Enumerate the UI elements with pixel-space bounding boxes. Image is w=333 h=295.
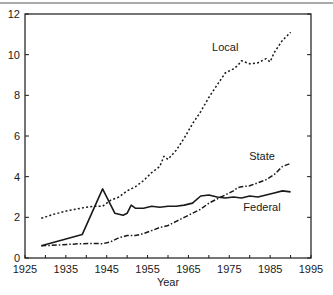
series-layer: LocalStateFederal: [41, 32, 290, 246]
plot-frame: [25, 14, 311, 258]
x-tick-label: 1975: [217, 263, 241, 275]
y-tick-label: 2: [14, 211, 20, 223]
series-federal-line: [41, 189, 290, 246]
y-tick-label: 8: [14, 89, 20, 101]
line-chart: 024681012 192519351945195519651975198519…: [0, 0, 333, 295]
x-tick-label: 1985: [258, 263, 282, 275]
series-local-line: [41, 32, 290, 218]
x-tick-label: 1955: [135, 263, 159, 275]
x-axis-label: Year: [157, 276, 180, 288]
y-tick-label: 12: [8, 8, 20, 20]
x-tick-label: 1945: [94, 263, 118, 275]
y-tick-label: 10: [8, 49, 20, 61]
y-tick-label: 6: [14, 130, 20, 142]
series-state-label: State: [249, 150, 275, 162]
x-tick-label: 1995: [299, 263, 323, 275]
series-federal-label: Federal: [243, 201, 280, 213]
y-tick-label: 4: [14, 171, 20, 183]
y-axis: 024681012: [8, 8, 311, 264]
x-tick-label: 1935: [54, 263, 78, 275]
x-tick-label: 1925: [13, 263, 37, 275]
series-local-label: Local: [212, 41, 238, 53]
x-tick-label: 1965: [176, 263, 200, 275]
